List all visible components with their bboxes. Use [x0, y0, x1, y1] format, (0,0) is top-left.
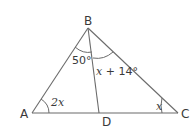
- angle-label-dbc: x + 14°: [96, 65, 138, 78]
- label-b: B: [84, 14, 92, 28]
- angle-label-bac: 2x: [50, 96, 65, 109]
- label-d: D: [102, 115, 111, 129]
- angle-label-abd: 50°: [72, 54, 92, 67]
- angle-arc-dbc: [93, 52, 113, 58]
- triangle-diagram: B A C D 50° x + 14° 2x x: [0, 0, 195, 133]
- angle-label-bca: x: [156, 100, 163, 113]
- angle-arc-abd: [75, 47, 92, 52]
- label-c: C: [181, 107, 189, 121]
- label-a: A: [20, 107, 29, 121]
- angle-arc-bac: [41, 99, 49, 113]
- angle-label-dbc-rest: + 14°: [102, 65, 138, 78]
